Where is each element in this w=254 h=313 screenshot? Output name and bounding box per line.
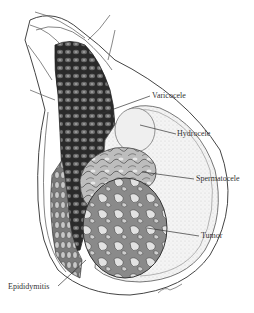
label-spermatocele: Spermatocele [196, 174, 240, 183]
label-hydrocele: Hydrocele [177, 129, 210, 138]
label-epididymitis: Epididymitis [8, 282, 49, 291]
hydrocele-upper [115, 108, 155, 152]
label-tumor: Tumor [201, 231, 223, 240]
label-varicocele: Varicocele [152, 91, 186, 100]
scrotal-masses-illustration [0, 0, 254, 313]
testis-tumor [83, 178, 167, 278]
